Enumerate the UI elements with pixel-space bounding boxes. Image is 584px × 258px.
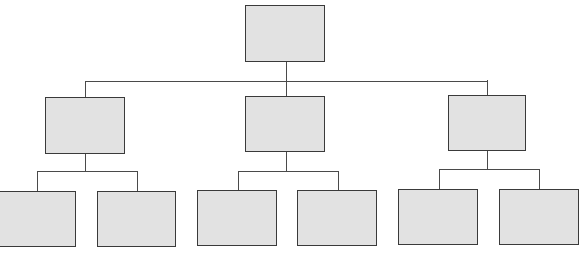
connector-left-child-2 bbox=[137, 171, 138, 191]
connector-right-child-2 bbox=[539, 169, 540, 189]
connector-right-branch-down bbox=[487, 150, 488, 169]
connector-to-right-branch bbox=[487, 80, 488, 95]
leaf-node-right-2 bbox=[499, 189, 579, 245]
connector-middle-branch-down bbox=[286, 151, 287, 171]
connector-root-down bbox=[286, 61, 287, 81]
connector-right-children-bus bbox=[439, 169, 539, 170]
connector-to-left-branch bbox=[85, 81, 86, 97]
connector-middle-child-1 bbox=[238, 171, 239, 191]
connector-middle-children-bus bbox=[238, 171, 338, 172]
leaf-node-right-1 bbox=[398, 189, 478, 245]
level2-node-middle bbox=[245, 96, 325, 152]
connector-left-branch-down bbox=[85, 153, 86, 171]
level2-node-left bbox=[45, 97, 125, 154]
leaf-node-left-2 bbox=[97, 191, 176, 247]
connector-to-middle-branch bbox=[286, 81, 287, 96]
connector-middle-child-2 bbox=[338, 171, 339, 191]
connector-left-children-bus bbox=[37, 171, 137, 172]
connector-left-child-1 bbox=[37, 171, 38, 191]
leaf-node-left-1 bbox=[0, 191, 76, 247]
leaf-node-middle-2 bbox=[297, 190, 377, 246]
level2-node-right bbox=[448, 95, 526, 151]
connector-right-child-1 bbox=[439, 169, 440, 189]
root-node bbox=[245, 5, 325, 62]
leaf-node-middle-1 bbox=[197, 190, 277, 246]
